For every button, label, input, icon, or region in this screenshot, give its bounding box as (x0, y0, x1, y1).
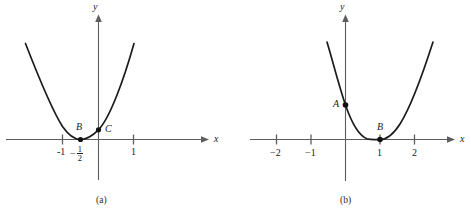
y-axis-label-a: y (93, 2, 97, 12)
y-axis-arrow-a (95, 15, 102, 23)
y-axis-arrow-b (342, 15, 349, 23)
x-tick-fraction-a: 1 2 (77, 145, 83, 163)
fraction-numerator-a: 1 (77, 145, 83, 154)
point-label-c-a: C (105, 124, 112, 134)
point-marker-c-a (96, 127, 101, 132)
point-label-b-b: B (377, 122, 383, 132)
x-tick-label-1-a: 1 (131, 147, 136, 157)
panel-caption-a: (a) (96, 195, 107, 205)
chart-svg-a (0, 0, 236, 213)
chart-panel-a: y x -1 − 1 2 1 B C (a) (0, 0, 236, 213)
panel-caption-b: (b) (340, 195, 351, 205)
x-axis-arrow-b (447, 136, 455, 143)
x-axis-arrow-a (201, 136, 209, 143)
x-tick-neg-sign-a: − (70, 149, 76, 159)
x-tick-label-neg1-b: −1 (305, 148, 316, 158)
point-marker-b-a (78, 137, 83, 142)
fraction-denominator-a: 2 (77, 153, 83, 163)
point-label-a-b: A (333, 99, 339, 109)
x-tick-label-neg-one-half-a: − 1 2 (70, 145, 83, 163)
chart-panel-b: y x −2 −1 1 2 A B (b) (236, 0, 471, 213)
point-marker-a-b (343, 102, 349, 108)
point-label-b-a: B (76, 122, 82, 132)
figure-root: y x -1 − 1 2 1 B C (a) (0, 0, 471, 213)
x-axis-label-b: x (460, 134, 464, 144)
y-axis-label-b: y (340, 2, 344, 12)
chart-svg-b (236, 0, 471, 213)
x-axis-label-a: x (214, 134, 218, 144)
x-tick-label-neg2-b: −2 (270, 148, 281, 158)
x-tick-label-1-b: 1 (377, 148, 382, 158)
x-tick-label-neg1-a: -1 (57, 147, 65, 157)
point-marker-b-b (377, 137, 383, 143)
x-tick-label-2-b: 2 (412, 148, 417, 158)
